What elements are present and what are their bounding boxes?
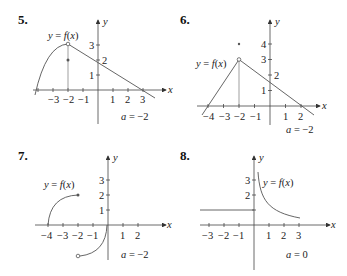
- graph-7: 7. x y −4 −3 −2 −1 1 2 1 2 3 y = f(x) a …: [18, 148, 172, 260]
- function-label: y = f(x): [195, 58, 227, 70]
- open-point: [66, 42, 70, 46]
- x-tick-label: 2: [298, 111, 303, 122]
- y-tick-label: 2: [99, 190, 104, 201]
- x-tick-label: −2: [218, 230, 229, 241]
- function-label: y = f(x): [262, 177, 294, 189]
- x-tick-label: −3: [219, 111, 230, 122]
- y-tick-label: 2: [274, 70, 279, 81]
- function-label: y = f(x): [43, 179, 75, 191]
- x-axis-label: x: [167, 84, 173, 95]
- a-value-label: a = −2: [121, 249, 149, 260]
- y-tick-label: 1: [99, 205, 104, 216]
- x-tick-label: 3: [296, 230, 301, 241]
- x-tick-label: −1: [87, 230, 98, 241]
- problem-number-5: 5.: [18, 12, 28, 27]
- x-tick-label: −3: [202, 230, 213, 241]
- x-tick-label: 1: [110, 94, 115, 105]
- y-tick-label: 2: [245, 190, 250, 201]
- y-tick-label: 3: [245, 175, 250, 186]
- function-label: y = f(x): [47, 30, 79, 42]
- graph-5: 5. x y −3 −2 −1 1 2 3 1 2 3 y = f(x) a =…: [18, 12, 173, 124]
- filled-point: [238, 43, 240, 45]
- x-tick-label: −2: [63, 94, 74, 105]
- filled-point: [67, 59, 70, 62]
- y-axis-label: y: [258, 152, 264, 163]
- graph-8: 8. x y −3 −2 −1 1 2 3 2 3 y = f(x) a = 0: [180, 148, 336, 270]
- open-point: [237, 58, 241, 62]
- x-tick-label: −4: [203, 111, 215, 122]
- a-value-label: a = −2: [121, 111, 149, 122]
- x-axis-label: x: [330, 219, 336, 230]
- y-tick-label: 3: [99, 175, 104, 186]
- a-value-label: a = 0: [286, 249, 308, 260]
- y-tick-label: 1: [89, 70, 94, 81]
- x-tick-label: 1: [266, 230, 271, 241]
- x-tick-label: 1: [120, 230, 125, 241]
- problem-number-7: 7.: [18, 148, 28, 163]
- graph-6: 6. x y −4 −3 −2 −1 1 2 1 2 3 4 y = f(x) …: [180, 12, 327, 135]
- x-axis-label: x: [166, 219, 172, 230]
- y-tick-label: 2: [102, 55, 107, 66]
- x-tick-label: 3: [140, 94, 145, 105]
- filled-point: [77, 194, 80, 197]
- y-tick-label: 3: [89, 40, 94, 51]
- figure-sheet: 5. x y −3 −2 −1 1 2 3 1 2 3 y = f(x) a =…: [0, 0, 347, 276]
- left-arc-branch: [48, 195, 78, 225]
- a-value-label: a = −2: [286, 124, 314, 135]
- y-axis-label: y: [112, 152, 118, 163]
- x-tick-label: −2: [72, 230, 83, 241]
- x-tick-label: −3: [48, 94, 59, 105]
- problem-number-8: 8.: [180, 148, 190, 163]
- parabola-branch: [35, 44, 68, 95]
- y-axis-label: y: [102, 16, 108, 27]
- right-line-branch: [239, 60, 314, 116]
- open-point: [76, 254, 80, 258]
- x-tick-label: −4: [41, 230, 53, 241]
- problem-number-6: 6.: [180, 12, 190, 27]
- y-tick-label: 4: [261, 39, 267, 50]
- y-tick-label: 3: [261, 54, 266, 65]
- y-axis-label: y: [274, 16, 280, 27]
- x-axis-label: x: [321, 100, 327, 111]
- x-tick-label: 2: [281, 230, 286, 241]
- x-tick-label: −3: [57, 230, 68, 241]
- x-tick-label: −1: [250, 111, 261, 122]
- y-tick-label: 1: [261, 85, 266, 96]
- x-tick-label: −1: [233, 230, 244, 241]
- x-tick-label: 2: [135, 230, 140, 241]
- x-tick-label: −2: [234, 111, 245, 122]
- x-tick-label: 1: [283, 111, 288, 122]
- x-tick-label: −1: [78, 94, 89, 105]
- x-tick-label: 2: [125, 94, 130, 105]
